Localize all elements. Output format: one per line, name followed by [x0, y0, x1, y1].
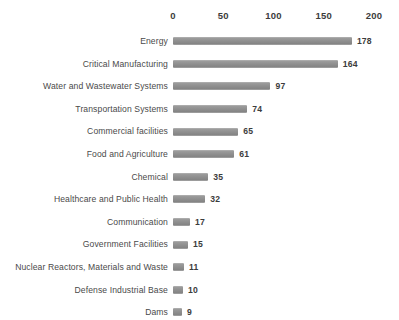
x-axis-tick-label: 100 — [265, 10, 281, 21]
category-label: Food and Agriculture — [87, 143, 168, 166]
bar[interactable] — [173, 37, 352, 45]
bar-value-label: 178 — [357, 30, 372, 53]
bar-row[interactable]: Energy178 — [0, 30, 399, 53]
x-axis-tick-label: 150 — [316, 10, 332, 21]
bar-row[interactable]: Communication17 — [0, 211, 399, 234]
bar[interactable] — [173, 308, 182, 316]
category-label: Chemical — [131, 166, 168, 189]
bar-rows-container: Energy178Critical Manufacturing164Water … — [0, 30, 399, 309]
category-label: Communication — [107, 211, 168, 234]
category-label: Government Facilities — [83, 233, 168, 256]
x-axis-tick-label: 0 — [170, 10, 175, 21]
category-label: Nuclear Reactors, Materials and Waste — [15, 256, 168, 279]
bar[interactable] — [173, 263, 184, 271]
bar[interactable] — [173, 195, 205, 203]
x-axis: 050100150200 — [0, 0, 399, 30]
bar-row[interactable]: Nuclear Reactors, Materials and Waste11 — [0, 256, 399, 279]
category-label: Energy — [140, 30, 168, 53]
bar-value-label: 10 — [188, 279, 198, 302]
category-label: Commercial facilities — [87, 120, 168, 143]
bar-value-label: 11 — [189, 256, 198, 279]
bar-value-label: 9 — [187, 301, 192, 320]
bar[interactable] — [173, 241, 188, 249]
bar[interactable] — [173, 128, 238, 136]
bar-value-label: 32 — [210, 188, 220, 211]
bar-row[interactable]: Food and Agriculture61 — [0, 143, 399, 166]
bar-value-label: 164 — [343, 53, 358, 76]
bar-value-label: 74 — [252, 98, 262, 121]
category-label: Dams — [145, 301, 168, 320]
category-label: Defense Industrial Base — [74, 279, 168, 302]
bar-row[interactable]: Chemical35 — [0, 166, 399, 189]
bar-value-label: 35 — [213, 166, 223, 189]
bar-row[interactable]: Critical Manufacturing164 — [0, 53, 399, 76]
category-label: Transportation Systems — [75, 98, 168, 121]
bar[interactable] — [173, 105, 247, 113]
bar[interactable] — [173, 218, 190, 226]
bar-row[interactable]: Transportation Systems74 — [0, 98, 399, 121]
bar-value-label: 15 — [193, 233, 203, 256]
bar[interactable] — [173, 82, 270, 90]
bar[interactable] — [173, 286, 183, 294]
bar[interactable] — [173, 60, 338, 68]
bar[interactable] — [173, 173, 208, 181]
x-axis-tick-label: 200 — [366, 10, 382, 21]
x-axis-tick-label: 50 — [218, 10, 229, 21]
bar-row[interactable]: Government Facilities15 — [0, 233, 399, 256]
category-label: Water and Wastewater Systems — [43, 75, 168, 98]
bar-row[interactable]: Healthcare and Public Health32 — [0, 188, 399, 211]
bar-value-label: 97 — [275, 75, 285, 98]
bar[interactable] — [173, 150, 234, 158]
category-label: Critical Manufacturing — [83, 53, 168, 76]
bar-row[interactable]: Commercial facilities65 — [0, 120, 399, 143]
bar-value-label: 17 — [195, 211, 205, 234]
category-label: Healthcare and Public Health — [54, 188, 168, 211]
bar-row[interactable]: Dams9 — [0, 301, 399, 320]
bar-value-label: 61 — [239, 143, 249, 166]
bar-row[interactable]: Defense Industrial Base10 — [0, 279, 399, 302]
bar-value-label: 65 — [243, 120, 253, 143]
bar-row[interactable]: Water and Wastewater Systems97 — [0, 75, 399, 98]
